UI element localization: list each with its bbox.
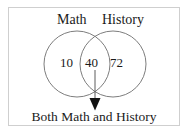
venn-diagram-figure: Math History 10 40 72 Both Math and Hist…: [0, 0, 188, 133]
value-intersection: 40: [85, 56, 98, 69]
set-label-history: History: [102, 13, 144, 27]
value-history-only: 72: [110, 56, 123, 69]
set-circle-math: [44, 31, 110, 97]
value-math-only: 10: [60, 56, 73, 69]
intersection-caption: Both Math and History: [0, 110, 188, 124]
set-label-math: Math: [57, 13, 87, 27]
